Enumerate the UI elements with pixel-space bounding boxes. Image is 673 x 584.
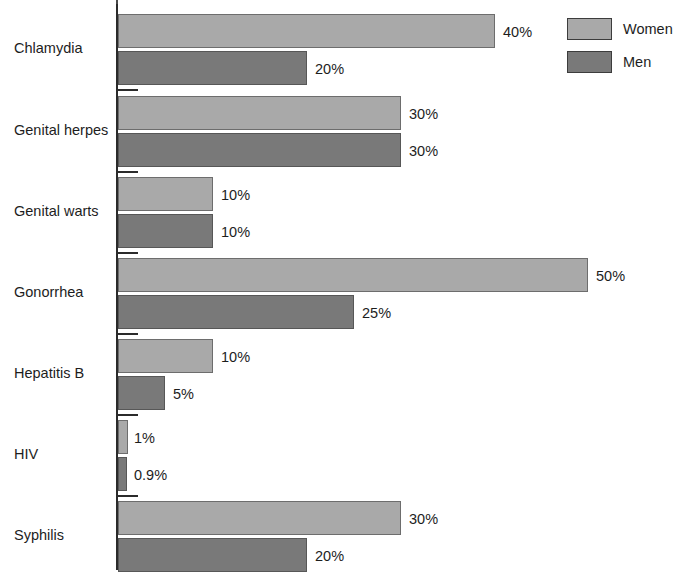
axis-tick: [118, 333, 138, 335]
legend-swatch-women: [567, 18, 612, 40]
bar-value-women-hepatitis-b: 10%: [221, 350, 250, 365]
category-label-hepatitis-b: Hepatitis B: [14, 366, 112, 381]
axis-tick: [118, 171, 138, 173]
chart-legend: Women Men: [567, 18, 667, 84]
bar-value-women-genital-herpes: 30%: [409, 107, 438, 122]
axis-tick: [118, 495, 138, 497]
category-label-gonorrhea: Gonorrhea: [14, 285, 112, 300]
bar-value-men-chlamydia: 20%: [315, 62, 344, 77]
bar-value-men-genital-herpes: 30%: [409, 144, 438, 159]
category-label-genital-herpes: Genital herpes: [14, 123, 112, 138]
bar-men-genital-herpes: [118, 133, 401, 167]
bar-men-hepatitis-b: [118, 376, 165, 410]
bar-women-hepatitis-b: [118, 339, 213, 373]
category-label-chlamydia: Chlamydia: [14, 41, 112, 56]
bar-value-men-syphilis: 20%: [315, 549, 344, 564]
bar-value-women-hiv: 1%: [134, 431, 155, 446]
bar-men-gonorrhea: [118, 295, 354, 329]
bar-value-men-genital-warts: 10%: [221, 225, 250, 240]
axis-tick: [118, 414, 138, 416]
bar-women-genital-herpes: [118, 96, 401, 130]
category-label-hiv: HIV: [14, 447, 112, 462]
category-label-genital-warts: Genital warts: [14, 204, 112, 219]
bar-value-men-hiv: 0.9%: [134, 468, 167, 483]
bar-women-genital-warts: [118, 177, 213, 211]
legend-swatch-men: [567, 51, 612, 73]
bar-value-men-gonorrhea: 25%: [362, 306, 391, 321]
category-label-syphilis: Syphilis: [14, 528, 112, 543]
bar-men-hiv: [118, 457, 127, 491]
axis-tick: [118, 252, 138, 254]
bar-value-women-genital-warts: 10%: [221, 188, 250, 203]
bar-men-genital-warts: [118, 214, 213, 248]
axis-tick: [118, 89, 138, 91]
bar-men-chlamydia: [118, 51, 307, 85]
legend-item-women: Women: [567, 18, 667, 51]
legend-label-women: Women: [623, 21, 673, 38]
legend-label-men: Men: [623, 54, 651, 71]
bar-value-men-hepatitis-b: 5%: [173, 387, 194, 402]
bar-value-women-gonorrhea: 50%: [596, 269, 625, 284]
bar-women-syphilis: [118, 501, 401, 535]
bar-women-chlamydia: [118, 14, 495, 48]
legend-item-men: Men: [567, 51, 667, 84]
bar-women-gonorrhea: [118, 258, 588, 292]
bar-value-women-chlamydia: 40%: [503, 25, 532, 40]
bar-women-hiv: [118, 420, 128, 454]
bar-value-women-syphilis: 30%: [409, 512, 438, 527]
bar-men-syphilis: [118, 538, 307, 572]
